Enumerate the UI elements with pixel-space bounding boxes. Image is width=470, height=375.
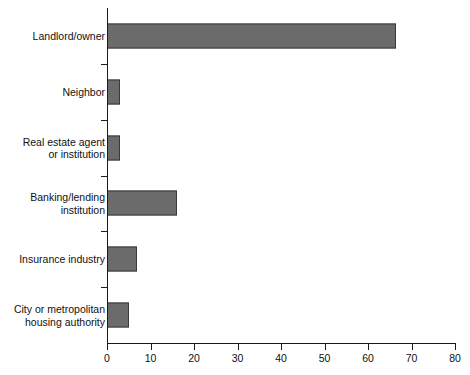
- bar: [107, 135, 120, 160]
- bar-chart: Landlord/ownerNeighborReal estate agent …: [0, 0, 470, 375]
- y-axis-tick: [101, 120, 107, 121]
- category-label: Insurance industry: [0, 253, 105, 266]
- plot-area: [107, 8, 455, 343]
- x-axis-tick-label: 20: [188, 352, 200, 364]
- y-axis-tick: [101, 64, 107, 65]
- y-axis-line: [107, 8, 108, 344]
- category-label: Landlord/owner: [0, 30, 105, 43]
- x-axis-tick: [455, 344, 456, 350]
- x-axis-tick-label: 50: [319, 352, 331, 364]
- category-label: Neighbor: [0, 86, 105, 99]
- category-label: City or metropolitan housing authority: [0, 303, 105, 328]
- x-axis-tick: [325, 344, 326, 350]
- x-axis-tick-label: 10: [145, 352, 157, 364]
- x-axis-tick: [281, 344, 282, 350]
- bar: [107, 79, 120, 104]
- x-axis-tick-label: 0: [104, 352, 110, 364]
- category-label: Real estate agent or institution: [0, 135, 105, 160]
- y-axis-tick: [101, 176, 107, 177]
- x-axis-tick-label: 30: [232, 352, 244, 364]
- y-axis-tick: [101, 287, 107, 288]
- bar: [107, 303, 129, 328]
- x-axis-tick: [412, 344, 413, 350]
- x-axis-tick: [238, 344, 239, 350]
- bar: [107, 247, 137, 272]
- x-axis-tick-label: 60: [362, 352, 374, 364]
- x-axis-tick: [368, 344, 369, 350]
- x-axis-tick: [194, 344, 195, 350]
- x-axis-tick: [107, 344, 108, 350]
- x-axis-tick: [151, 344, 152, 350]
- bar: [107, 23, 396, 48]
- x-axis-tick-label: 70: [406, 352, 418, 364]
- x-axis-tick-label: 40: [275, 352, 287, 364]
- category-label: Banking/lending institution: [0, 191, 105, 216]
- x-axis-tick-label: 80: [449, 352, 461, 364]
- y-axis-tick: [101, 231, 107, 232]
- bar: [107, 191, 177, 216]
